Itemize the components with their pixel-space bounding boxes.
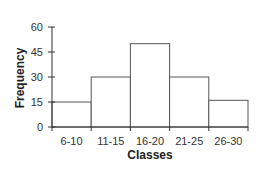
x-tick-label: 6-10 (61, 135, 83, 147)
bar-11-15 (91, 77, 130, 127)
bars-group (52, 44, 248, 127)
y-tick-label: 30 (31, 71, 43, 83)
y-tick-label: 15 (31, 96, 43, 108)
x-tick-label: 26-30 (214, 135, 242, 147)
x-axis-ticks: 6-1011-1516-2021-2526-30 (52, 127, 248, 147)
y-axis-title: Frequency (13, 47, 27, 108)
y-axis-ticks: 015304560 (31, 21, 55, 133)
bar-26-30 (209, 100, 248, 127)
histogram-chart: 015304560 6-1011-1516-2021-2526-30 Class… (0, 0, 261, 180)
y-tick-label: 45 (31, 46, 43, 58)
y-tick-label: 0 (37, 121, 43, 133)
bar-6-10 (52, 102, 91, 127)
x-tick-label: 11-15 (97, 135, 124, 147)
bar-16-20 (130, 44, 169, 127)
x-tick-label: 21-25 (175, 135, 203, 147)
x-tick-label: 16-20 (136, 135, 164, 147)
y-tick-label: 60 (31, 21, 43, 33)
bar-21-25 (170, 77, 209, 127)
x-axis-title: Classes (127, 148, 173, 162)
